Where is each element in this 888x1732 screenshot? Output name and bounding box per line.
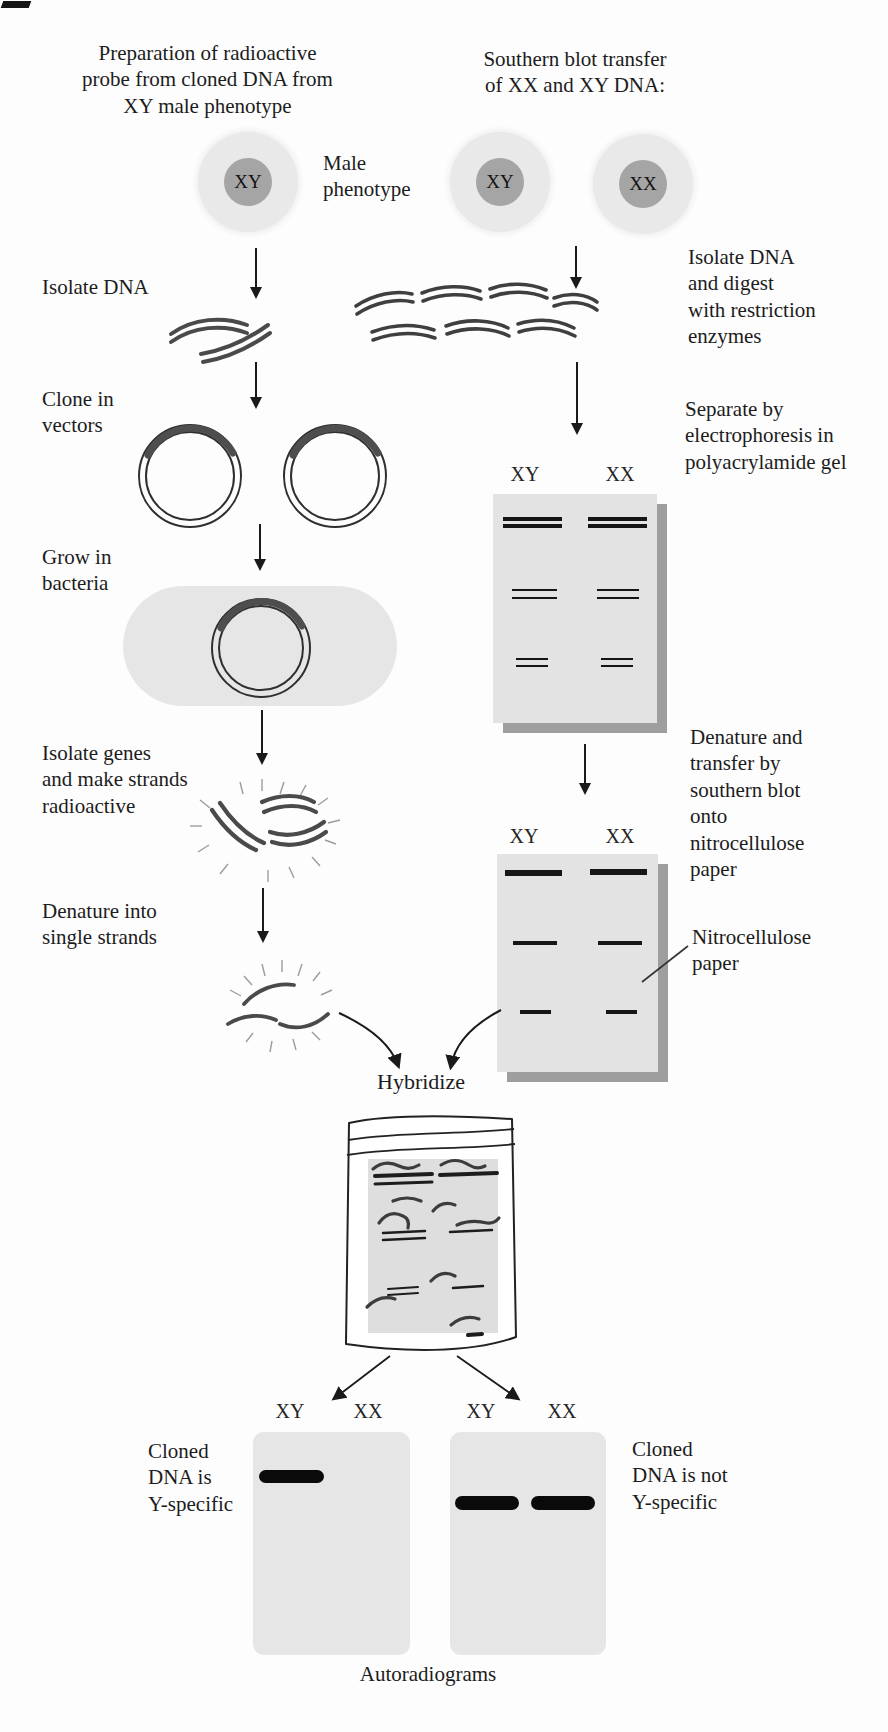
- polyacrylamide-gel: [493, 494, 657, 723]
- plasmid-in-bacterium: [209, 596, 313, 700]
- plasmid-vector: [281, 422, 389, 530]
- gel-band: [588, 517, 647, 528]
- right-column-title: Southern blot transfer of XX and XY DNA:: [450, 46, 700, 99]
- radioactive-probe-fragments: [182, 776, 350, 896]
- down-arrow: [584, 744, 586, 784]
- nitrocellulose-blot: [497, 854, 658, 1072]
- y-specific-result-label: Cloned DNA is Y-specific: [148, 1438, 233, 1517]
- blot-band: [590, 869, 647, 875]
- autoradiogram-y-specific: [253, 1432, 410, 1655]
- gel-band: [512, 589, 557, 599]
- restriction-fragments: [350, 276, 602, 356]
- autoradiogram-not-y-specific: [450, 1432, 606, 1655]
- nitrocellulose-pointer-line: [636, 938, 694, 986]
- male-cell-nucleus: XY: [224, 158, 272, 206]
- grow-in-bacteria-label: Grow in bacteria: [42, 544, 111, 597]
- autorad-left-lane-xy: XY: [268, 1400, 312, 1423]
- dna-fragments: [165, 312, 275, 366]
- xx-cell: XX: [593, 134, 693, 234]
- down-arrow: [261, 710, 263, 754]
- down-arrow: [259, 524, 261, 560]
- male-phenotype-label: Male phenotype: [323, 150, 410, 203]
- isolate-dna-label: Isolate DNA: [42, 274, 149, 300]
- autorad-band: [455, 1496, 519, 1510]
- xy-cell: XY: [450, 132, 550, 232]
- autoradiograms-caption: Autoradiograms: [298, 1661, 558, 1687]
- autorad-right-lane-xy: XY: [459, 1400, 503, 1423]
- gel-lane-label-xx: XX: [598, 463, 642, 486]
- denature-single-strands-label: Denature into single strands: [42, 898, 157, 951]
- down-arrow: [255, 248, 257, 288]
- gel-lane-label-xy: XY: [503, 463, 547, 486]
- figure-canvas: Preparation of radioactive probe from cl…: [0, 0, 888, 1732]
- male-cell: XY: [198, 132, 298, 232]
- xy-cell-nucleus: XY: [476, 158, 524, 206]
- autorad-band: [259, 1470, 324, 1483]
- blot-lane-label-xx: XX: [598, 825, 642, 848]
- down-arrow: [575, 246, 577, 278]
- plasmid-vector: [136, 422, 244, 530]
- down-arrow: [255, 362, 257, 398]
- blot-band: [505, 870, 562, 876]
- left-column-title: Preparation of radioactive probe from cl…: [55, 40, 360, 119]
- blot-lane-label-xy: XY: [502, 825, 546, 848]
- isolate-genes-label: Isolate genes and make strands radioacti…: [42, 740, 188, 819]
- gel-band: [516, 658, 548, 667]
- gel-band: [597, 589, 639, 599]
- autorad-band: [531, 1496, 595, 1510]
- down-arrow: [576, 362, 578, 424]
- separate-electrophoresis-label: Separate by electrophoresis in polyacryl…: [685, 396, 847, 475]
- down-arrow: [262, 888, 264, 932]
- not-y-specific-result-label: Cloned DNA is not Y-specific: [632, 1436, 728, 1515]
- gel-band: [503, 517, 562, 528]
- clone-in-vectors-label: Clone in vectors: [42, 386, 114, 439]
- autorad-left-lane-xx: XX: [346, 1400, 390, 1423]
- gel-band: [601, 658, 633, 667]
- nitrocellulose-paper-label: Nitrocellulose paper: [692, 924, 811, 977]
- xx-cell-nucleus: XX: [619, 160, 667, 208]
- hybridization-bag: [333, 1103, 529, 1365]
- denature-transfer-label: Denature and transfer by southern blot o…: [690, 724, 804, 883]
- diverging-arrows: [305, 1352, 545, 1408]
- blot-band: [513, 941, 557, 945]
- blot-band: [520, 1010, 551, 1014]
- scan-artifact: [1, 1, 32, 8]
- blot-band: [606, 1010, 637, 1014]
- autorad-right-lane-xx: XX: [540, 1400, 584, 1423]
- isolate-digest-label: Isolate DNA and digest with restriction …: [688, 244, 816, 350]
- hybridize-label: Hybridize: [356, 1068, 486, 1096]
